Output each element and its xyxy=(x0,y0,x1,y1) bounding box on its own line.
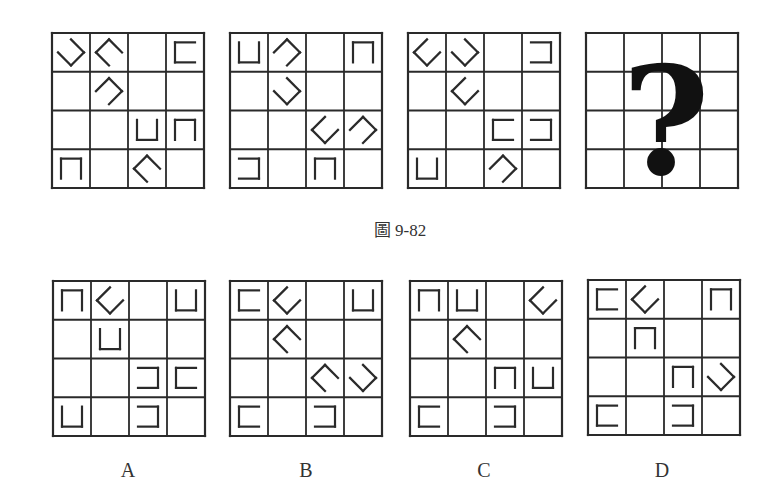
glyph-N-icon xyxy=(673,367,693,387)
glyph-open-ul-icon xyxy=(58,39,84,65)
glyph-N-icon xyxy=(62,290,82,310)
glyph-open-dr-icon xyxy=(96,39,122,65)
glyph-D-icon xyxy=(495,407,515,427)
grid-4x4 xyxy=(408,33,560,188)
glyph-D-icon xyxy=(239,159,259,179)
glyph-open-ul-icon xyxy=(452,39,478,65)
glyph-open-ur-icon xyxy=(274,287,300,313)
glyph-open-ur-icon xyxy=(414,39,440,65)
glyph-C-icon xyxy=(493,120,513,140)
glyph-open-ur-icon xyxy=(530,287,556,313)
glyph-D-icon xyxy=(531,120,551,140)
grid-4x4 xyxy=(410,281,562,436)
glyph-U-icon xyxy=(100,329,120,349)
option-grid-a[interactable] xyxy=(53,281,205,436)
glyph-C-icon xyxy=(597,406,617,426)
figure-caption: 圖 9-82 xyxy=(350,216,450,241)
option-grid-d[interactable] xyxy=(588,280,740,435)
glyph-open-dl-icon xyxy=(350,117,376,143)
glyph-U-icon xyxy=(457,290,477,310)
option-label-a[interactable]: A xyxy=(108,459,148,482)
glyph-N-icon xyxy=(495,368,515,388)
glyph-U-icon xyxy=(176,290,196,310)
glyph-open-ul-icon xyxy=(708,364,734,390)
glyph-U-icon xyxy=(137,120,157,140)
glyph-open-dl-icon xyxy=(96,78,122,104)
option-grid-c[interactable] xyxy=(410,281,562,436)
glyph-N-icon xyxy=(711,289,731,309)
option-label-b[interactable]: B xyxy=(286,459,326,482)
glyph-N-icon xyxy=(353,42,373,62)
glyph-C-icon xyxy=(597,289,617,309)
glyph-open-ul-icon xyxy=(274,78,300,104)
grid-4x4 xyxy=(230,281,382,436)
glyph-U-icon xyxy=(417,159,437,179)
glyph-C-icon xyxy=(419,407,439,427)
grid-4x4: ? xyxy=(586,33,738,188)
glyph-U-icon xyxy=(62,407,82,427)
stimulus-grid-2 xyxy=(230,33,382,188)
glyph-C-icon xyxy=(176,368,196,388)
glyph-N-icon xyxy=(175,120,195,140)
glyph-D-icon xyxy=(138,368,158,388)
glyph-N-icon xyxy=(419,290,439,310)
glyph-U-icon xyxy=(533,368,553,388)
glyph-open-dr-icon xyxy=(134,156,160,182)
glyph-open-dr-icon xyxy=(274,326,300,352)
glyph-open-ur-icon xyxy=(452,78,478,104)
grid-4x4 xyxy=(53,281,205,436)
option-label-d[interactable]: D xyxy=(642,459,682,482)
glyph-open-dr-icon xyxy=(312,365,338,391)
glyph-C-icon xyxy=(239,407,259,427)
grid-4x4 xyxy=(52,33,204,188)
glyph-N-icon xyxy=(635,328,655,348)
glyph-open-ur-icon xyxy=(312,117,338,143)
glyph-D-icon xyxy=(315,407,335,427)
glyph-open-ur-icon xyxy=(632,286,658,312)
stimulus-grid-1 xyxy=(52,33,204,188)
glyph-open-dr-icon xyxy=(454,326,480,352)
question-mark-icon: ? xyxy=(622,33,710,209)
glyph-N-icon xyxy=(61,159,81,179)
option-grid-b[interactable] xyxy=(230,281,382,436)
glyph-open-ul-icon xyxy=(350,365,376,391)
grid-4x4 xyxy=(230,33,382,188)
option-label-c[interactable]: C xyxy=(464,459,504,482)
grid-4x4 xyxy=(588,280,740,435)
glyph-open-dl-icon xyxy=(274,39,300,65)
stimulus-grid-3 xyxy=(408,33,560,188)
glyph-D-icon xyxy=(138,407,158,427)
glyph-C-icon xyxy=(239,290,259,310)
glyph-D-icon xyxy=(673,406,693,426)
glyph-open-dl-icon xyxy=(490,156,516,182)
glyph-D-icon xyxy=(531,42,551,62)
glyph-C-icon xyxy=(175,42,195,62)
glyph-N-icon xyxy=(315,159,335,179)
glyph-U-icon xyxy=(239,42,259,62)
glyph-U-icon xyxy=(353,290,373,310)
stimulus-grid-question: ? xyxy=(586,33,738,188)
glyph-open-ur-icon xyxy=(97,287,123,313)
